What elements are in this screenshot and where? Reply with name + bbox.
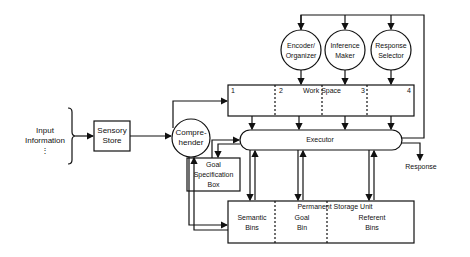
semantic-bins-label: Semantic Bins	[230, 213, 274, 233]
referent-bins-label: Referent Bins	[350, 213, 394, 233]
inference-line2: Maker	[325, 51, 365, 61]
referent-line1: Referent	[350, 213, 394, 223]
referent-line2: Bins	[350, 223, 394, 233]
response-label: Response	[403, 162, 439, 172]
input-ellipsis: ⋮	[20, 146, 70, 156]
comprehender-line2: hender	[172, 138, 210, 148]
response-sel-line1: Response	[371, 41, 411, 51]
inference-line1: Inference	[325, 41, 365, 51]
slot-2: 2	[279, 86, 283, 96]
comprehender-line1: Compre-	[172, 128, 210, 138]
goal-bin-label: Goal Bin	[280, 213, 324, 233]
goal-line3: Box	[187, 180, 240, 190]
input-line2: Information	[20, 136, 70, 146]
semantic-line1: Semantic	[230, 213, 274, 223]
goal-line2: Specification	[187, 170, 240, 180]
sensory-line1: Sensory	[94, 126, 130, 136]
encoder-line2: Organizer	[281, 51, 321, 61]
slot-3: 3	[361, 86, 365, 96]
executor-label: Executor	[280, 135, 360, 145]
goalbin-line2: Bin	[280, 223, 324, 233]
semantic-line2: Bins	[230, 223, 274, 233]
inference-maker-label: Inference Maker	[325, 41, 365, 61]
psu-title: Permanent Storage Unit	[280, 202, 390, 212]
encoder-line1: Encoder/	[281, 41, 321, 51]
goal-line1: Goal	[187, 160, 240, 170]
input-line1: Input	[20, 126, 70, 136]
sensory-line2: Store	[94, 136, 130, 146]
input-label: Input Information ⋮	[20, 126, 70, 156]
slot-1: 1	[231, 86, 235, 96]
sensory-store-label: Sensory Store	[94, 126, 130, 146]
goal-box-label: Goal Specification Box	[187, 160, 240, 190]
response-sel-line2: Selector	[371, 51, 411, 61]
slot-4: 4	[407, 86, 411, 96]
response-selector-label: Response Selector	[371, 41, 411, 61]
encoder-organizer-label: Encoder/ Organizer	[281, 41, 321, 61]
comprehender-label: Compre- hender	[172, 128, 210, 148]
work-space-title: Work Space	[300, 86, 344, 96]
goalbin-line1: Goal	[280, 213, 324, 223]
